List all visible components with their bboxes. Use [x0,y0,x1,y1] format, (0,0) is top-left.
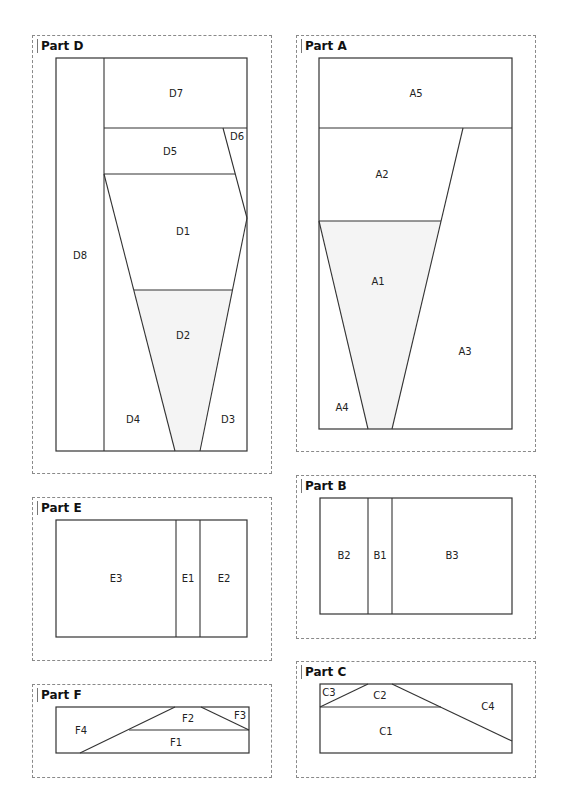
label-d2: D2 [176,330,190,341]
foundation-piecing-diagram: D7 D6 D5 D1 D8 D2 D4 D3 A5 A2 A1 A3 A4 E… [0,0,569,808]
label-a3: A3 [458,346,471,357]
part-c-outline [320,684,512,753]
label-b2: B2 [337,550,350,561]
label-d4: D4 [126,414,140,425]
seam-c4 [392,684,512,741]
label-f3: F3 [234,710,246,721]
part-a-pattern: A5 A2 A1 A3 A4 [319,58,512,429]
label-b3: B3 [445,550,458,561]
label-d3: D3 [221,414,235,425]
label-d7: D7 [169,88,183,99]
label-f1: F1 [170,737,182,748]
label-f2: F2 [182,713,194,724]
label-c2: C2 [373,690,386,701]
label-a2: A2 [375,169,388,180]
part-e-pattern: E3 E1 E2 [56,520,247,637]
label-c1: C1 [379,726,392,737]
part-d-pattern: D7 D6 D5 D1 D8 D2 D4 D3 [56,58,247,451]
label-a4: A4 [335,402,348,413]
label-d8: D8 [73,250,87,261]
label-e3: E3 [110,573,123,584]
label-f4: F4 [75,725,87,736]
part-c-pattern: C3 C2 C4 C1 [320,684,512,753]
label-d1: D1 [176,226,190,237]
label-c4: C4 [481,701,494,712]
piece-a1-fill [319,221,441,429]
label-c3: C3 [322,687,335,698]
label-a5: A5 [409,88,422,99]
label-d6: D6 [230,131,244,142]
label-b1: B1 [373,550,386,561]
part-f-pattern: F4 F2 F3 F1 [56,707,249,753]
label-d5: D5 [163,146,177,157]
label-e1: E1 [182,573,195,584]
label-a1: A1 [371,276,384,287]
label-e2: E2 [218,573,231,584]
part-b-pattern: B2 B1 B3 [320,498,512,614]
piece-d2-fill [134,290,233,451]
